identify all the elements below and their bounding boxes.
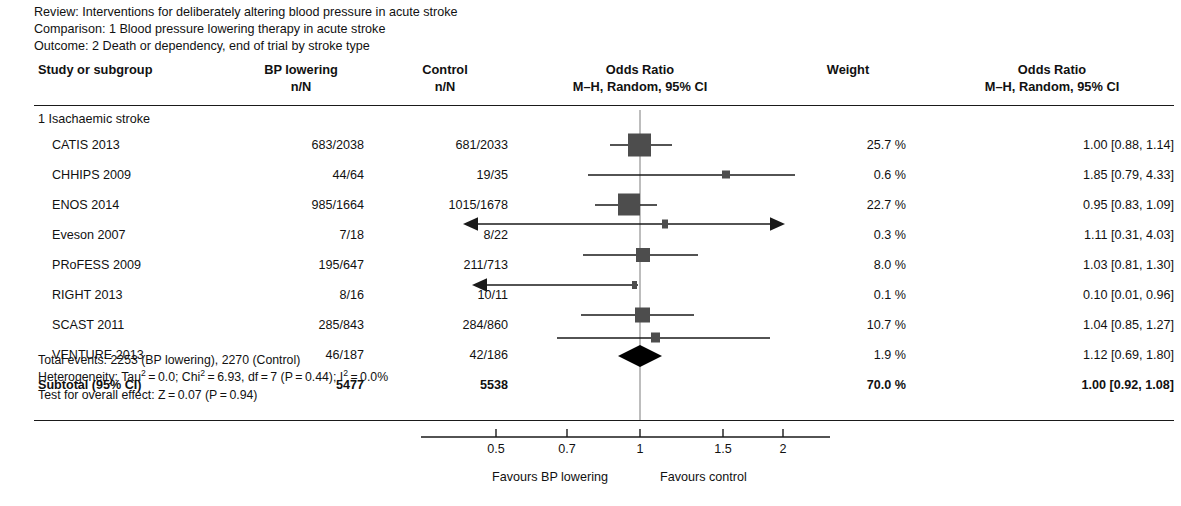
control-value: 8/22 (382, 220, 508, 250)
header-bp-lowering-line1: BP lowering (264, 62, 338, 77)
x-tick-label: 2 (753, 440, 813, 458)
total-events-prefix: Total events: (38, 353, 110, 367)
control-value: 284/860 (382, 310, 508, 340)
header-plot-odds-ratio: Odds Ratio M–H, Random, 95% CI (530, 62, 750, 95)
control-value: 19/35 (382, 160, 508, 190)
control-value: 681/2033 (382, 130, 508, 160)
table-row[interactable]: SCAST 2011 285/843 284/860 10.7 % 1.04 [… (0, 310, 1181, 340)
header-weight: Weight (790, 62, 906, 79)
study-name: Eveson 2007 (52, 220, 126, 250)
study-name: CHHIPS 2009 (52, 160, 131, 190)
odds-ratio-value: 1.04 [0.85, 1.27] (930, 310, 1174, 340)
header-or-line1: Odds Ratio (1018, 62, 1086, 77)
header-control-line1: Control (422, 62, 468, 77)
weight-value: 10.7 % (790, 310, 906, 340)
odds-ratio-value: 0.10 [0.01, 0.96] (930, 280, 1174, 310)
favours-right-label: Favours control (660, 468, 747, 486)
control-value: 42/186 (382, 340, 508, 370)
table-row[interactable]: Eveson 2007 7/18 8/22 0.3 % 1.11 [0.31, … (0, 220, 1181, 250)
study-name: SCAST 2011 (52, 310, 124, 340)
study-name: PRoFESS 2009 (52, 250, 141, 280)
header-bp-lowering-line2: n/N (238, 79, 364, 96)
control-value: 1015/1678 (382, 190, 508, 220)
weight-value: 1.9 % (790, 340, 906, 370)
header-plot-line2: M–H, Random, 95% CI (530, 79, 750, 96)
control-value: 10/11 (382, 280, 508, 310)
subtotal-odds-ratio: 1.00 [0.92, 1.08] (930, 370, 1174, 400)
weight-value: 25.7 % (790, 130, 906, 160)
subtotal-weight: 70.0 % (790, 370, 906, 400)
header-study: Study or subgroup (38, 62, 152, 79)
header-control: Control n/N (382, 62, 508, 95)
header-control-line2: n/N (382, 79, 508, 96)
column-headers: Study or subgroup BP lowering n/N Contro… (0, 58, 1181, 106)
bp-lowering-value: 985/1664 (238, 190, 364, 220)
control-value: 211/713 (382, 250, 508, 280)
weight-value: 22.7 % (790, 190, 906, 220)
odds-ratio-value: 1.03 [0.81, 1.30] (930, 250, 1174, 280)
odds-ratio-value: 1.11 [0.31, 4.03] (930, 220, 1174, 250)
x-axis-ticks (496, 429, 783, 437)
table-row[interactable]: PRoFESS 2009 195/647 211/713 8.0 % 1.03 … (0, 250, 1181, 280)
header-odds-ratio: Odds Ratio M–H, Random, 95% CI (930, 62, 1174, 95)
odds-ratio-value: 1.12 [0.69, 1.80] (930, 340, 1174, 370)
weight-value: 0.6 % (790, 160, 906, 190)
weight-value: 0.1 % (790, 280, 906, 310)
table-row[interactable]: RIGHT 2013 8/16 10/11 0.1 % 0.10 [0.01, … (0, 280, 1181, 310)
total-events-line: Total events: 2253 (BP lowering), 2270 (… (38, 352, 388, 369)
table-row[interactable]: ENOS 2014 985/1664 1015/1678 22.7 % 0.95… (0, 190, 1181, 220)
heterogeneity-line: Heterogeneity: Tau2 = 0.0; Chi2 = 6.93, … (38, 369, 388, 386)
odds-ratio-value: 1.00 [0.88, 1.14] (930, 130, 1174, 160)
favours-left-label: Favours BP lowering (492, 468, 608, 486)
bp-lowering-value: 44/64 (238, 160, 364, 190)
bp-lowering-value: 683/2038 (238, 130, 364, 160)
x-axis-tick-labels: 0.5 0.7 1 1.5 2 (0, 440, 1181, 460)
weight-value: 0.3 % (790, 220, 906, 250)
header-bp-lowering: BP lowering n/N (238, 62, 364, 95)
outcome-line: Outcome: 2 Death or dependency, end of t… (34, 38, 458, 55)
footer-divider (34, 420, 1174, 421)
bp-lowering-value: 195/647 (238, 250, 364, 280)
heterogeneity-prefix: Heterogeneity: Tau (38, 370, 141, 384)
bp-lowering-value: 7/18 (238, 220, 364, 250)
weight-value: 8.0 % (790, 250, 906, 280)
study-name: RIGHT 2013 (52, 280, 122, 310)
study-name: ENOS 2014 (52, 190, 119, 220)
bp-lowering-value: 8/16 (238, 280, 364, 310)
subtotal-control-total: 5538 (382, 370, 508, 400)
table-row[interactable]: CHHIPS 2009 44/64 19/35 0.6 % 1.85 [0.79… (0, 160, 1181, 190)
total-events-value: 2253 (BP lowering), 2270 (Control) (110, 353, 300, 367)
review-line: Review: Interventions for deliberately a… (34, 4, 458, 21)
statistics-footer: Total events: 2253 (BP lowering), 2270 (… (38, 352, 388, 404)
odds-ratio-value: 0.95 [0.83, 1.09] (930, 190, 1174, 220)
forest-plot-figure: Review: Interventions for deliberately a… (0, 0, 1181, 506)
x-tick-label: 1 (610, 440, 670, 458)
figure-meta-header: Review: Interventions for deliberately a… (34, 4, 458, 56)
subgroup-label: 1 Isachaemic stroke (38, 108, 150, 130)
heterogeneity-end: = 0.0% (348, 370, 388, 384)
x-tick-label: 0.5 (466, 440, 526, 458)
header-or-line2: M–H, Random, 95% CI (930, 79, 1174, 96)
table-row[interactable]: CATIS 2013 683/2038 681/2033 25.7 % 1.00… (0, 130, 1181, 160)
header-plot-line1: Odds Ratio (606, 62, 674, 77)
bp-lowering-value: 285/843 (238, 310, 364, 340)
heterogeneity-mid2: = 6.93, df = 7 (P = 0.44); I (205, 370, 343, 384)
study-name: CATIS 2013 (52, 130, 120, 160)
odds-ratio-value: 1.85 [0.79, 4.33] (930, 160, 1174, 190)
x-tick-label: 0.7 (537, 440, 597, 458)
heterogeneity-mid: = 0.0; Chi (146, 370, 200, 384)
comparison-line: Comparison: 1 Blood pressure lowering th… (34, 21, 458, 38)
overall-effect-line: Test for overall effect: Z = 0.07 (P = 0… (38, 387, 388, 404)
header-divider (34, 105, 1174, 106)
subgroup-heading-row: 1 Isachaemic stroke (0, 108, 1181, 130)
x-tick-label: 1.5 (693, 440, 753, 458)
